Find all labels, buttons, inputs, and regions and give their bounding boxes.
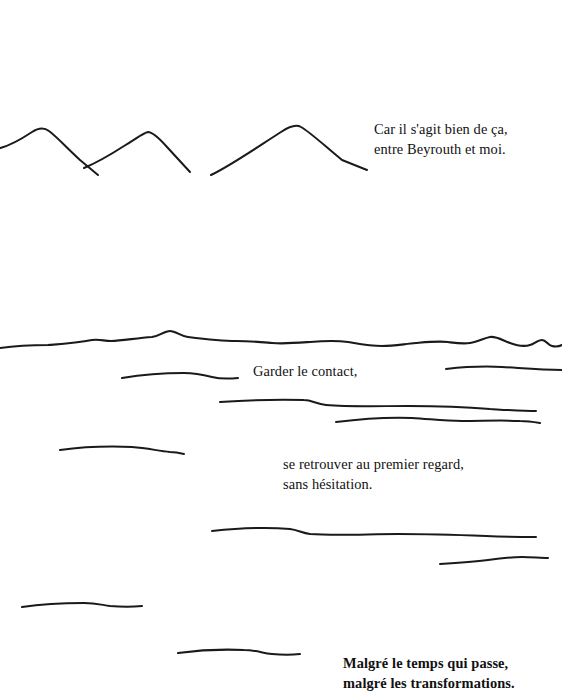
line-short-upper-right xyxy=(446,367,562,370)
mountain-ridge-left xyxy=(0,128,98,175)
mountain-ridge-right xyxy=(211,126,367,175)
book-page: Car il s'agit bien de ça, entre Beyrouth… xyxy=(0,0,562,700)
horizon-line-long xyxy=(0,331,562,348)
line-short-upper-left xyxy=(122,373,238,379)
mountain-ridge-middle xyxy=(84,132,190,172)
line-left-mid xyxy=(60,447,184,454)
caption-malgre-le-temps: Malgré le temps qui passe, malgré les tr… xyxy=(343,654,515,693)
caption-se-retrouver: se retrouver au premier regard, sans hés… xyxy=(283,455,464,494)
line-right-lower xyxy=(440,557,548,564)
line-wide-lower xyxy=(212,528,536,537)
caption-garder-le-contact: Garder le contact, xyxy=(253,362,357,382)
landscape-drawing xyxy=(0,0,562,700)
line-left-bottom xyxy=(22,603,142,607)
line-mid-wide xyxy=(220,400,536,411)
line-mid-lower xyxy=(336,418,540,423)
line-center-bottom xyxy=(178,650,300,655)
caption-mountains: Car il s'agit bien de ça, entre Beyrouth… xyxy=(374,120,508,159)
